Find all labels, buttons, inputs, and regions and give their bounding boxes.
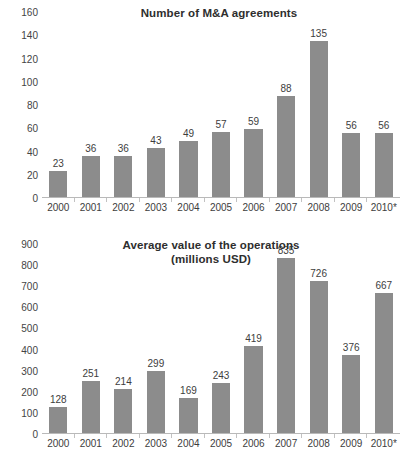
bar: 135 — [310, 41, 328, 198]
bar: 299 — [147, 371, 165, 434]
bar-value-label: 243 — [213, 370, 230, 381]
y-tick-label: 80 — [0, 100, 38, 111]
x-tick-label: 2001 — [75, 202, 108, 213]
y-tick-label: 20 — [0, 169, 38, 180]
bar: 57 — [212, 132, 230, 198]
bar-slot: 726 — [302, 244, 335, 434]
bar-slot: 59 — [237, 12, 270, 198]
x-tick-label: 2002 — [107, 438, 140, 449]
bar: 835 — [277, 258, 295, 434]
bar-value-label: 49 — [183, 128, 194, 139]
bar: 56 — [342, 133, 360, 198]
x-tick-label: 2003 — [140, 202, 173, 213]
bar-slot: 57 — [205, 12, 238, 198]
y-tick-label: 60 — [0, 123, 38, 134]
x-axis-labels-top: 2000200120022003200420052006200720082009… — [42, 202, 400, 213]
bar-value-label: 376 — [343, 342, 360, 353]
bar: 214 — [114, 389, 132, 434]
bar: 251 — [82, 381, 100, 434]
plot-area-bottom: 128251214299169243419835726376667 — [42, 244, 400, 434]
bar: 23 — [49, 171, 67, 198]
x-tick-label: 2007 — [270, 202, 303, 213]
bar-slot: 36 — [107, 12, 140, 198]
bar-slot: 667 — [367, 244, 400, 434]
y-tick-label: 0 — [0, 429, 38, 440]
bar: 56 — [375, 133, 393, 198]
y-tick-label: 0 — [0, 193, 38, 204]
x-tick-label: 2009 — [335, 202, 368, 213]
bar: 43 — [147, 148, 165, 198]
bar: 49 — [179, 141, 197, 198]
bar: 59 — [244, 129, 262, 198]
bar-slot: 128 — [42, 244, 75, 434]
x-tick-label: 2002 — [107, 202, 140, 213]
y-tick-label: 160 — [0, 7, 38, 18]
y-tick-label: 300 — [0, 365, 38, 376]
bar-value-label: 36 — [85, 143, 96, 154]
bar-value-label: 59 — [248, 116, 259, 127]
x-tick-label: 2006 — [237, 438, 270, 449]
bar-slot: 36 — [75, 12, 108, 198]
y-tick-label: 600 — [0, 302, 38, 313]
x-tick-label: 2009 — [335, 438, 368, 449]
bar-value-label: 419 — [245, 333, 262, 344]
bar: 726 — [310, 281, 328, 434]
y-tick-label: 200 — [0, 386, 38, 397]
bar-slot: 56 — [367, 12, 400, 198]
bar-value-label: 23 — [53, 158, 64, 169]
bar-series-top: 23363643495759881355656 — [42, 12, 400, 198]
bar-slot: 251 — [75, 244, 108, 434]
bar-slot: 23 — [42, 12, 75, 198]
bar-value-label: 36 — [118, 143, 129, 154]
chart-average-value-of-operations: Average value of the operations (million… — [0, 232, 404, 464]
bar: 128 — [49, 407, 67, 434]
bar-value-label: 169 — [180, 385, 197, 396]
bar-slot: 169 — [172, 244, 205, 434]
bar-value-label: 835 — [278, 245, 295, 256]
y-tick-label: 100 — [0, 76, 38, 87]
y-tick-label: 140 — [0, 30, 38, 41]
y-axis-bottom: 0100200300400500600700800900 — [0, 244, 38, 434]
bar-value-label: 667 — [375, 280, 392, 291]
bar-value-label: 56 — [346, 120, 357, 131]
bar-value-label: 214 — [115, 376, 132, 387]
x-tick-label: 2003 — [140, 438, 173, 449]
x-tick-label: 2005 — [205, 202, 238, 213]
y-tick-label: 900 — [0, 239, 38, 250]
bar: 667 — [375, 293, 393, 434]
bar-value-label: 88 — [281, 83, 292, 94]
bar-slot: 43 — [140, 12, 173, 198]
y-tick-label: 40 — [0, 146, 38, 157]
bar: 36 — [82, 156, 100, 198]
bar-slot: 49 — [172, 12, 205, 198]
y-tick-label: 120 — [0, 53, 38, 64]
x-axis-labels-bottom: 2000200120022003200420052006200720082009… — [42, 438, 400, 449]
x-tick-label: 2008 — [302, 438, 335, 449]
bar-slot: 135 — [302, 12, 335, 198]
bar-value-label: 128 — [50, 394, 67, 405]
x-tick-label: 2006 — [237, 202, 270, 213]
y-tick-label: 700 — [0, 281, 38, 292]
bar-slot: 419 — [237, 244, 270, 434]
x-tick-label: 2010* — [367, 438, 400, 449]
bar-slot: 56 — [335, 12, 368, 198]
x-axis-line-bottom — [42, 433, 400, 434]
x-tick-label: 2004 — [172, 438, 205, 449]
bar: 376 — [342, 355, 360, 434]
bar-slot: 835 — [270, 244, 303, 434]
bar-value-label: 43 — [150, 135, 161, 146]
bar-value-label: 251 — [82, 368, 99, 379]
bar-slot: 243 — [205, 244, 238, 434]
x-tick-label: 2008 — [302, 202, 335, 213]
x-tick-label: 2010* — [367, 202, 400, 213]
y-tick-label: 400 — [0, 344, 38, 355]
x-tick-label: 2007 — [270, 438, 303, 449]
x-tick-label: 2001 — [75, 438, 108, 449]
bar-slot: 299 — [140, 244, 173, 434]
bar-series-bottom: 128251214299169243419835726376667 — [42, 244, 400, 434]
bar-value-label: 726 — [310, 268, 327, 279]
bar: 36 — [114, 156, 132, 198]
bar-value-label: 299 — [148, 358, 165, 369]
y-tick-label: 100 — [0, 407, 38, 418]
bar-value-label: 135 — [310, 28, 327, 39]
